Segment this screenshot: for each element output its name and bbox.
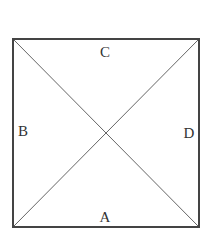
label-d: D xyxy=(184,125,195,141)
square-diagram: C B D A xyxy=(0,0,212,235)
label-b: B xyxy=(18,123,28,139)
label-a: A xyxy=(100,209,111,225)
label-c: C xyxy=(100,44,110,60)
